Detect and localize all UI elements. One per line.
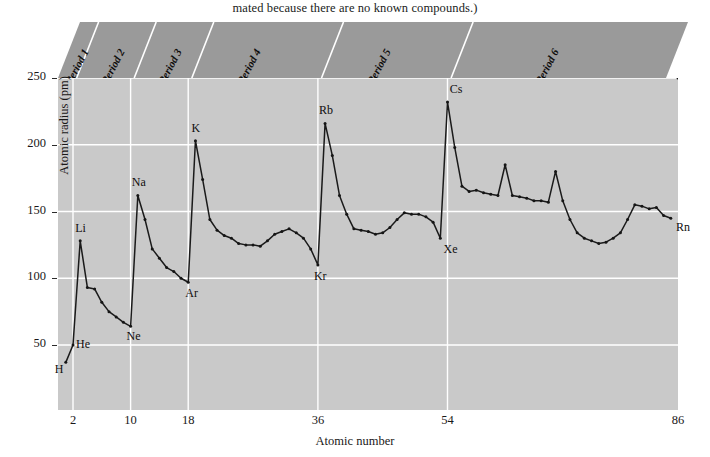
y-tick-label: 100 xyxy=(6,269,46,284)
element-label-kr: Kr xyxy=(314,269,327,284)
y-tick-label: 200 xyxy=(6,136,46,151)
period-band-shape xyxy=(58,22,688,80)
y-tick-mark xyxy=(52,212,57,213)
element-label-ne: Ne xyxy=(127,329,141,344)
x-tick-label: 2 xyxy=(58,413,88,428)
element-label-xe: Xe xyxy=(444,242,458,257)
y-axis-title: Atomic radius (pm) xyxy=(57,56,72,196)
horizontal-gridlines xyxy=(58,78,678,345)
x-tick-label: 18 xyxy=(173,413,203,428)
period-band: Period 1Period 2Period 3Period 4Period 5… xyxy=(58,22,688,80)
y-tick-mark xyxy=(52,278,57,279)
x-tick-label: 36 xyxy=(303,413,333,428)
y-tick-label: 50 xyxy=(6,336,46,351)
y-tick-mark xyxy=(52,345,57,346)
element-label-rn: Rn xyxy=(676,220,690,235)
y-tick-label: 250 xyxy=(6,69,46,84)
element-label-k: K xyxy=(191,121,200,136)
element-label-rb: Rb xyxy=(319,103,333,118)
x-axis-title: Atomic number xyxy=(0,434,710,449)
plot-area xyxy=(58,78,678,410)
x-tick-label: 86 xyxy=(663,413,693,428)
y-tick-label: 150 xyxy=(6,203,46,218)
chart-canvas xyxy=(58,78,678,410)
x-tick-label: 10 xyxy=(116,413,146,428)
element-label-he: He xyxy=(76,337,90,352)
x-tick-label: 54 xyxy=(433,413,463,428)
element-label-cs: Cs xyxy=(450,82,463,97)
vertical-gridlines xyxy=(73,78,448,410)
element-label-h: H xyxy=(55,362,64,377)
element-label-ar: Ar xyxy=(185,286,198,301)
figure-caption: mated because there are no known compoun… xyxy=(0,1,710,16)
data-markers xyxy=(64,78,678,364)
chart-figure: mated because there are no known compoun… xyxy=(0,0,710,457)
element-label-li: Li xyxy=(75,221,86,236)
element-label-na: Na xyxy=(132,175,146,190)
